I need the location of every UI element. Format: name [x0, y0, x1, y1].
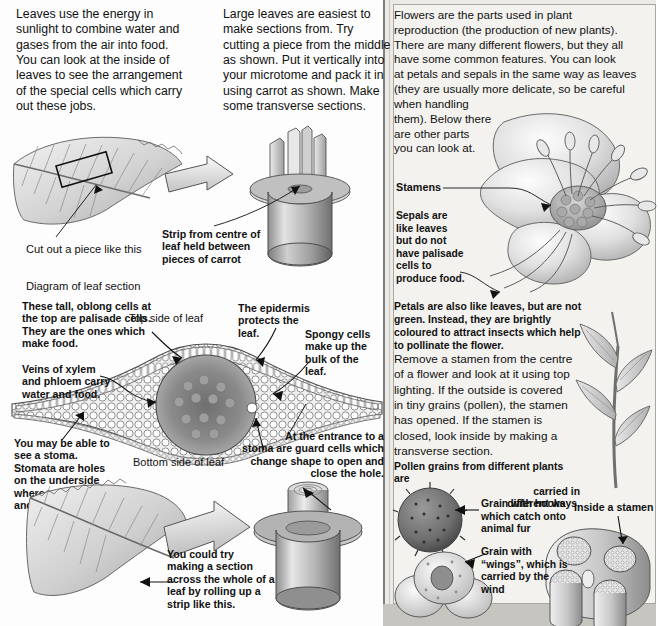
strip-carrot-line-1: Strip from centre of [162, 228, 272, 240]
pollen-intro-line-1: Pollen grains from different plants are [394, 461, 580, 486]
middle-intro-line-3: cutting a piece from the middle [223, 38, 398, 53]
panel-intro-line-1: Flowers are the parts used in plant [394, 8, 654, 23]
sepals-line-2: like leaves [396, 223, 472, 236]
wings-line-2: “wings”, which is [481, 559, 577, 572]
remove-line-5: has opened. If the stamen is [394, 413, 594, 428]
panel-intro-line-4: have some common features. You can look [394, 52, 654, 67]
sepals-line-1: Sepals are [396, 210, 472, 223]
sepals-line-4: have palisade [396, 248, 472, 261]
wings-line-3: carried by the [481, 571, 577, 584]
caption-spongy: Spongy cells make up the bulk of the lea… [305, 328, 385, 378]
sepals-leader [460, 270, 520, 300]
wings-line-4: wind [481, 584, 577, 597]
panel-intro-line-6: (they are usually more delicate, so be c… [394, 82, 654, 97]
label-hooks: Grain with hooks which catch onto animal… [481, 498, 577, 536]
left-intro-line-6: of the special cells which carry [16, 84, 206, 99]
middle-intro-paragraph: Large leaves are easiest to make section… [223, 7, 398, 115]
panel-intro-line-3: There are many different flowers, but th… [394, 38, 654, 53]
hooks-line-3: animal fur [481, 523, 577, 536]
stoma-line-2: see a stoma. [14, 449, 144, 461]
remove-line-6: closed, look inside by making a [394, 429, 594, 444]
left-intro-line-5: leaves to see the arrangement [16, 68, 206, 83]
middle-intro-line-5: your microtome and pack it in [223, 68, 398, 83]
panel-intro-line-2: reproduction (the production of new plan… [394, 23, 654, 38]
label-inside-stamen: Inside a stamen [574, 501, 660, 514]
stamens-leader [443, 183, 563, 211]
left-intro-line-3: gases from the air into food. [16, 38, 206, 53]
left-intro-paragraph: Leaves use the energy in sunlight to com… [16, 7, 206, 115]
hooks-arrow [443, 504, 481, 516]
roll-insert-arrow [297, 486, 333, 512]
middle-intro-line-4: as shown. Put it vertically into [223, 53, 398, 68]
pollen-intro-line-2: carried in [394, 486, 580, 498]
hooks-line-1: Grain with hooks [481, 498, 577, 511]
middle-intro-line-6: using carrot as shown. Make [223, 84, 398, 99]
wings-line-1: Grain with [481, 546, 577, 559]
panel-intro-line-5: at petals and sepals in the same way as … [394, 67, 654, 82]
panel-intro-line-7: when handling [394, 97, 654, 112]
left-intro-line-2: sunlight to combine water and [16, 22, 206, 37]
cut-piece-leader [52, 175, 112, 239]
spongy-line-3: bulk of the [305, 353, 385, 365]
strip-carrot-line-3: pieces of carrot [162, 253, 272, 265]
palisade-arrow [150, 330, 200, 370]
guard-cells-arrow [248, 416, 272, 452]
sepals-line-3: but do not [396, 235, 472, 248]
epidermis-line-2: protects the [238, 314, 323, 326]
caption-strip-carrot: Strip from centre of leaf held between p… [162, 228, 272, 265]
label-wings: Grain with “wings”, which is carried by … [481, 546, 577, 597]
epidermis-line-1: The epidermis [238, 302, 323, 314]
guard-cells-leader [286, 404, 310, 434]
hooks-line-2: which catch onto [481, 511, 577, 524]
spongy-line-2: make up the [305, 340, 385, 352]
remove-line-4: in tiny grains (pollen), the stamen [394, 398, 594, 413]
middle-intro-line-1: Large leaves are easiest to [223, 7, 398, 22]
label-remove-stamen: Remove a stamen from the centre of a flo… [394, 352, 594, 459]
remove-line-1: Remove a stamen from the centre [394, 352, 594, 367]
inside-stamen-arrow [612, 516, 632, 552]
remove-line-7: transverse section. [394, 444, 594, 459]
caption-diagram-title: Diagram of leaf section [26, 280, 226, 293]
left-intro-line-1: Leaves use the energy in [16, 7, 206, 22]
stoma-arrow [60, 410, 100, 442]
plant-stem-illustration [572, 312, 656, 492]
palisade-line-1: These tall, oblong cells at [22, 300, 172, 312]
left-intro-line-4: You can look at the inside of [16, 53, 206, 68]
spongy-line-1: Spongy cells [305, 328, 385, 340]
caption-top-side: Top side of leaf [129, 312, 249, 325]
veins-arrow [100, 372, 170, 414]
middle-intro-line-7: some transverse sections. [223, 99, 398, 114]
strip-carrot-leader [212, 170, 316, 228]
stoma-line-3: Stomata are holes [14, 462, 144, 474]
middle-intro-line-2: make sections from. Try [223, 22, 398, 37]
spongy-line-4: leaf. [305, 365, 385, 377]
strip-carrot-line-2: leaf held between [162, 240, 272, 252]
remove-line-3: lighting. If the outside is covered [394, 383, 594, 398]
left-intro-line-7: out these jobs. [16, 99, 206, 114]
remove-line-2: of a flower and look at it using top [394, 367, 594, 382]
spongy-arrow [265, 362, 311, 402]
